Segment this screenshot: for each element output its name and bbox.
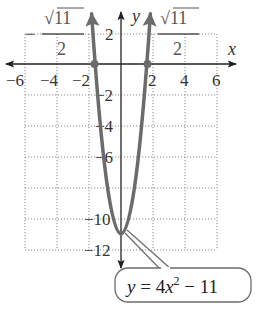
- y-tick-label: 2: [105, 25, 114, 44]
- left-root-denominator: 2: [57, 39, 66, 59]
- x-axis-label: x: [227, 39, 236, 59]
- x-tick-label: 6: [212, 71, 221, 90]
- x-tick-label: −2: [72, 71, 90, 90]
- left-root-point: [91, 60, 99, 68]
- left-root-sign: −: [25, 24, 35, 44]
- right-root-numerator: √11: [160, 8, 187, 28]
- right-root-denominator: 2: [173, 39, 182, 59]
- y-tick-label: −4: [95, 117, 114, 136]
- y-tick-label: −10: [84, 210, 111, 229]
- parabola-chart: x y −6 −4 −2 2 4 6 2 −2 −4 −6 −10 −12 − …: [0, 0, 258, 309]
- y-tick-labels: 2 −2 −4 −6 −10 −12: [84, 25, 114, 260]
- left-root-label: − √11 2: [25, 8, 84, 59]
- y-tick-label: −12: [84, 241, 111, 260]
- right-root-point: [144, 60, 152, 68]
- x-tick-label: −6: [6, 71, 24, 90]
- x-tick-label: 4: [180, 71, 189, 90]
- right-root-label: √11 2: [158, 8, 199, 59]
- left-root-numerator: √11: [44, 8, 71, 28]
- x-tick-label: −4: [40, 71, 59, 90]
- equation-label: y = 4x2 − 11: [125, 274, 218, 297]
- x-tick-labels: −6 −4 −2 2 4 6: [6, 71, 221, 90]
- y-axis-label: y: [130, 6, 140, 26]
- x-tick-label: 2: [148, 71, 157, 90]
